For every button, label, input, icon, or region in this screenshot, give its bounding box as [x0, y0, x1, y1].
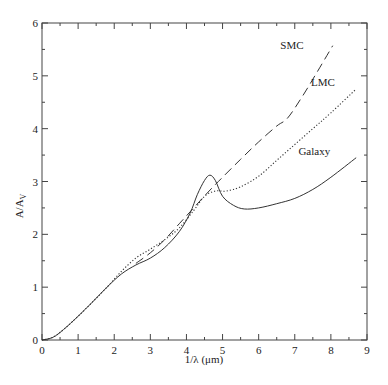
y-axis-label: A/AV: [13, 193, 28, 218]
x-tick-label: 0: [39, 344, 45, 356]
y-tick-label: 1: [33, 281, 39, 293]
label-lmc: LMC: [311, 76, 335, 88]
y-tick-label: 3: [33, 176, 39, 188]
series-lines: [42, 46, 356, 340]
y-tick-label: 0: [33, 334, 39, 346]
series-labels: SMCLMCGalaxy: [280, 39, 335, 157]
label-smc: SMC: [280, 39, 303, 51]
series-galaxy-line: [42, 158, 356, 340]
series-lmc-line: [42, 89, 356, 340]
y-tick-label: 5: [33, 70, 39, 82]
extinction-curve-chart: 0123456789 0123456 SMCLMCGalaxy 1/λ (μm)…: [0, 0, 388, 385]
x-tick-label: 1: [75, 344, 81, 356]
x-axis-label: 1/λ (μm): [185, 353, 224, 366]
x-tick-label: 7: [292, 344, 298, 356]
x-tick-label: 8: [328, 344, 334, 356]
y-axis-ticks: 0123456: [33, 17, 368, 346]
y-tick-label: 6: [33, 17, 39, 29]
x-tick-label: 3: [148, 344, 154, 356]
x-tick-label: 2: [111, 344, 117, 356]
label-galaxy: Galaxy: [298, 145, 330, 157]
y-tick-label: 2: [33, 228, 39, 240]
svg-text:A/AV: A/AV: [13, 193, 28, 218]
x-tick-label: 9: [364, 344, 370, 356]
y-tick-label: 4: [33, 123, 39, 135]
x-tick-label: 6: [256, 344, 262, 356]
